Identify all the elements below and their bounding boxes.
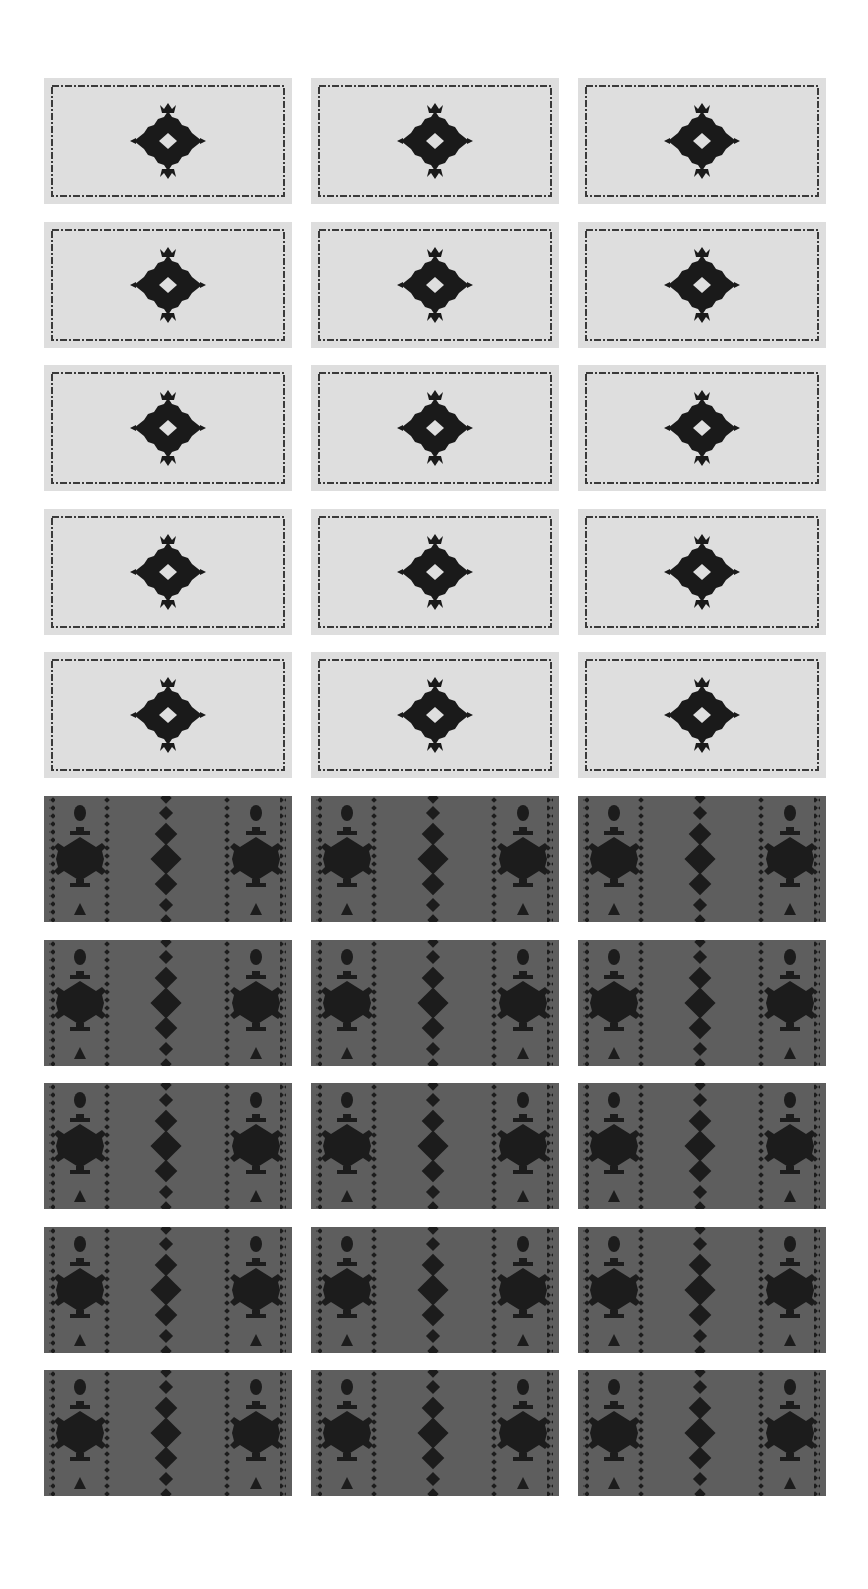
snowflake-stripe-motif-icon bbox=[578, 796, 826, 922]
medallion-motif-icon bbox=[44, 509, 292, 635]
light-pattern-tile bbox=[311, 222, 559, 348]
light-pattern-tile bbox=[311, 652, 559, 778]
dark-pattern-tile bbox=[311, 1083, 559, 1209]
snowflake-stripe-motif-icon bbox=[311, 940, 559, 1066]
light-pattern-tile bbox=[44, 78, 292, 204]
snowflake-stripe-motif-icon bbox=[578, 1227, 826, 1353]
medallion-motif-icon bbox=[578, 652, 826, 778]
medallion-motif-icon bbox=[578, 509, 826, 635]
dark-pattern-tile bbox=[578, 796, 826, 922]
snowflake-stripe-motif-icon bbox=[578, 1083, 826, 1209]
dark-pattern-tile bbox=[311, 1370, 559, 1496]
light-pattern-tile bbox=[44, 222, 292, 348]
medallion-motif-icon bbox=[311, 78, 559, 204]
light-pattern-tile bbox=[44, 365, 292, 491]
snowflake-stripe-motif-icon bbox=[311, 796, 559, 922]
light-pattern-tile bbox=[578, 652, 826, 778]
snowflake-stripe-motif-icon bbox=[44, 1227, 292, 1353]
medallion-motif-icon bbox=[311, 652, 559, 778]
medallion-motif-icon bbox=[311, 509, 559, 635]
medallion-motif-icon bbox=[578, 78, 826, 204]
snowflake-stripe-motif-icon bbox=[44, 1083, 292, 1209]
medallion-motif-icon bbox=[44, 365, 292, 491]
medallion-motif-icon bbox=[44, 78, 292, 204]
medallion-motif-icon bbox=[44, 222, 292, 348]
light-pattern-tile bbox=[311, 78, 559, 204]
snowflake-stripe-motif-icon bbox=[44, 1370, 292, 1496]
snowflake-stripe-motif-icon bbox=[44, 796, 292, 922]
light-pattern-tile bbox=[44, 652, 292, 778]
light-pattern-tile bbox=[311, 509, 559, 635]
dark-pattern-tile bbox=[44, 940, 292, 1066]
light-pattern-tile bbox=[578, 78, 826, 204]
medallion-motif-icon bbox=[578, 365, 826, 491]
light-pattern-tile bbox=[311, 365, 559, 491]
snowflake-stripe-motif-icon bbox=[311, 1227, 559, 1353]
dark-pattern-tile bbox=[44, 1227, 292, 1353]
light-pattern-tile bbox=[578, 365, 826, 491]
dark-pattern-tile bbox=[44, 1083, 292, 1209]
dark-pattern-tile bbox=[578, 940, 826, 1066]
light-pattern-tile bbox=[44, 509, 292, 635]
snowflake-stripe-motif-icon bbox=[578, 1370, 826, 1496]
snowflake-stripe-motif-icon bbox=[311, 1370, 559, 1496]
snowflake-stripe-motif-icon bbox=[311, 1083, 559, 1209]
light-pattern-tile bbox=[578, 222, 826, 348]
dark-pattern-tile bbox=[578, 1370, 826, 1496]
dark-pattern-tile bbox=[311, 1227, 559, 1353]
medallion-motif-icon bbox=[311, 222, 559, 348]
dark-pattern-tile bbox=[578, 1227, 826, 1353]
dark-pattern-tile bbox=[311, 796, 559, 922]
snowflake-stripe-motif-icon bbox=[44, 940, 292, 1066]
snowflake-stripe-motif-icon bbox=[578, 940, 826, 1066]
medallion-motif-icon bbox=[44, 652, 292, 778]
dark-pattern-tile bbox=[44, 1370, 292, 1496]
medallion-motif-icon bbox=[311, 365, 559, 491]
dark-pattern-tile bbox=[44, 796, 292, 922]
dark-pattern-tile bbox=[578, 1083, 826, 1209]
medallion-motif-icon bbox=[578, 222, 826, 348]
dark-pattern-tile bbox=[311, 940, 559, 1066]
light-pattern-tile bbox=[578, 509, 826, 635]
